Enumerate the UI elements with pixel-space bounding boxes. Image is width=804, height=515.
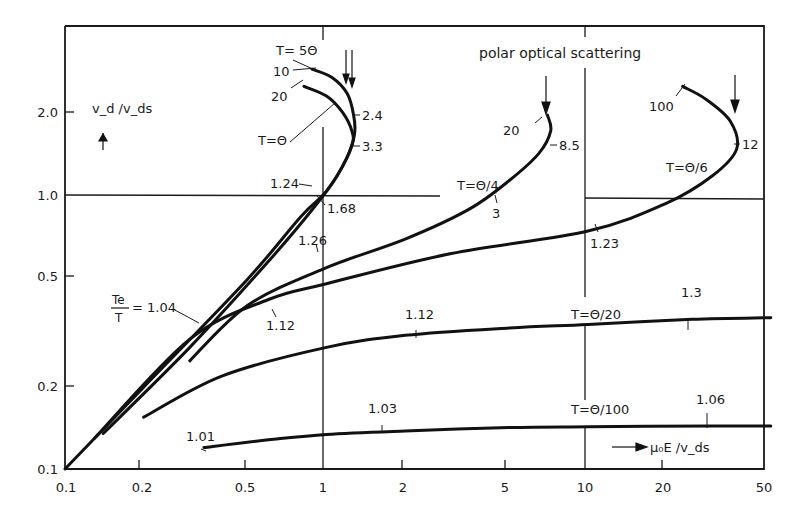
y-axis-label: v_d /v_ds (92, 101, 152, 116)
x-tick-50: 50 (756, 480, 773, 495)
te-ratio-value: = 1.04 (132, 300, 176, 315)
label-20b: 20 (503, 123, 520, 138)
label-t5: T= 5Θ (275, 43, 317, 58)
label-100: 100 (649, 99, 674, 114)
label-1-23: 1.23 (590, 236, 619, 251)
label-1-68: 1.68 (327, 201, 356, 216)
label-1-12a: 1.12 (266, 318, 295, 333)
y-ticks (65, 112, 74, 386)
label-1-12b: 1.12 (405, 307, 434, 322)
curve-t- (103, 86, 353, 433)
te-ratio-numerator: Te (111, 293, 125, 307)
label-1-01: 1.01 (186, 429, 215, 444)
curve-t-20 (144, 318, 771, 418)
x-tick-labels: 0.1 0.2 0.5 1 2 5 10 20 50 (56, 480, 773, 495)
inline-labels: T= 5Θ 10 20 T=Θ 2.4 3.3 1.24 1.68 1.26 1… (92, 43, 759, 455)
label-2-4: 2.4 (362, 108, 383, 123)
x-tick-10: 10 (577, 480, 594, 495)
y-tick-0.5: 0.5 (37, 269, 58, 284)
x-axis-label: μ₀E /v_ds (650, 440, 710, 455)
label-1-06: 1.06 (696, 392, 725, 407)
label-t4: T=Θ/4 (456, 178, 499, 193)
x-tick-20: 20 (655, 480, 672, 495)
chart-canvas: 2.0 1.0 0.5 0.2 0.1 0.1 0.2 0.5 1 2 5 10… (0, 0, 804, 515)
x-tick-5: 5 (501, 480, 509, 495)
y-tick-1.0: 1.0 (37, 188, 58, 203)
te-ratio-denominator: T (114, 311, 123, 325)
x-tick-0.1: 0.1 (56, 480, 77, 495)
label-12: 12 (742, 137, 759, 152)
label-t20: T=Θ/20 (570, 307, 621, 322)
gridline-y1-left (65, 195, 440, 196)
label-1-03: 1.03 (368, 401, 397, 416)
curves (65, 69, 771, 469)
label-10: 10 (273, 64, 290, 79)
title-polar-optical-scattering: polar optical scattering (479, 45, 641, 61)
y-tick-0.2: 0.2 (37, 379, 58, 394)
y-tick-0.1: 0.1 (37, 462, 58, 477)
label-8-5: 8.5 (559, 138, 580, 153)
label-3: 3 (492, 206, 500, 221)
x-tick-1: 1 (319, 480, 327, 495)
label-t100: T=Θ/100 (570, 402, 629, 417)
x-ticks (139, 460, 662, 469)
label-1-24: 1.24 (270, 176, 299, 191)
y-tick-2.0: 2.0 (37, 105, 58, 120)
label-1-26: 1.26 (298, 233, 327, 248)
label-t1: T=Θ (257, 133, 287, 148)
y-tick-labels: 2.0 1.0 0.5 0.2 0.1 (37, 105, 58, 477)
label-t6: T=Θ/6 (665, 160, 708, 175)
label-3-3: 3.3 (362, 139, 383, 154)
arrow-icons (99, 50, 739, 451)
label-20a: 20 (271, 89, 288, 104)
label-1-3: 1.3 (681, 285, 702, 300)
curve-t-5- (65, 69, 355, 469)
x-tick-2: 2 (399, 480, 407, 495)
leader-lines (173, 60, 740, 451)
x-tick-0.2: 0.2 (132, 480, 153, 495)
curve-t-6 (95, 86, 738, 438)
x-tick-0.5: 0.5 (235, 480, 256, 495)
